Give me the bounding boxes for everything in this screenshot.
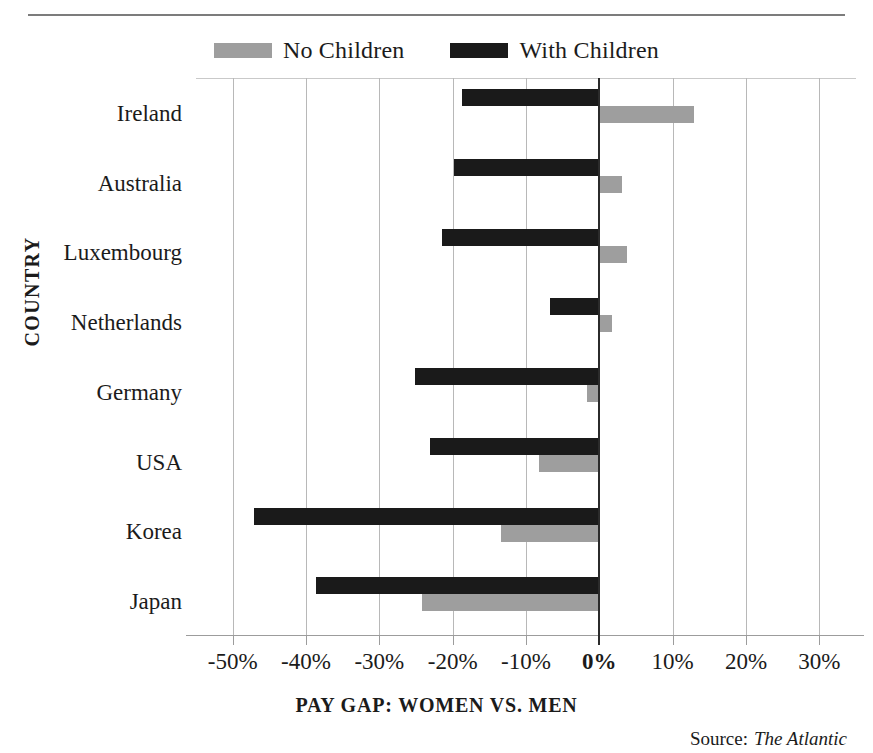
y-axis-label-japan: Japan <box>2 590 182 613</box>
legend-item-no-children: No Children <box>214 38 405 62</box>
bar-japan-no-children <box>422 594 599 611</box>
bar-row <box>196 427 856 497</box>
y-axis-category-labels: IrelandAustraliaLuxembourgNetherlandsGer… <box>0 78 182 636</box>
x-axis-line <box>186 635 864 636</box>
bar-row <box>196 287 856 357</box>
y-axis-label-netherlands: Netherlands <box>2 311 182 334</box>
bar-germany-with-children <box>415 368 600 385</box>
bar-row <box>196 148 856 218</box>
bar-netherlands-with-children <box>550 298 599 315</box>
plot-area <box>196 78 856 636</box>
header-divider <box>28 14 845 16</box>
x-axis-tickmark <box>306 636 307 645</box>
y-axis-label-korea: Korea <box>2 520 182 543</box>
bar-row <box>196 566 856 636</box>
bar-japan-with-children <box>316 577 599 594</box>
legend-swatch-with-children <box>450 43 508 58</box>
legend-swatch-no-children <box>214 43 272 58</box>
x-axis-tickmark <box>819 636 820 645</box>
bar-australia-with-children <box>454 159 599 176</box>
x-axis-tickmark <box>598 636 600 645</box>
bar-row <box>196 218 856 288</box>
bar-usa-no-children <box>539 455 599 472</box>
legend-label-no-children: No Children <box>283 38 405 62</box>
source-label: Source: <box>690 728 748 749</box>
bar-row <box>196 78 856 148</box>
bar-korea-no-children <box>501 525 599 542</box>
y-axis-label-germany: Germany <box>2 381 182 404</box>
bar-luxembourg-no-children <box>599 246 627 263</box>
bar-ireland-with-children <box>462 89 599 106</box>
x-axis-tickmark <box>746 636 747 645</box>
bar-netherlands-no-children <box>599 315 611 332</box>
legend-label-with-children: With Children <box>519 38 659 62</box>
y-axis-label-australia: Australia <box>2 172 182 195</box>
chart-legend: No Children With Children <box>0 36 873 64</box>
x-axis-tickmark <box>673 636 674 645</box>
x-axis-tickmark <box>233 636 234 645</box>
x-axis-tick-label: 30% <box>774 650 864 673</box>
bar-ireland-no-children <box>599 106 694 123</box>
source-name: The Atlantic <box>748 728 847 749</box>
zero-line <box>598 78 600 636</box>
x-axis-title: PAY GAP: WOMEN VS. MEN <box>0 694 873 717</box>
x-axis-tickmark <box>453 636 454 645</box>
y-axis-label-usa: USA <box>2 451 182 474</box>
y-axis-label-luxembourg: Luxembourg <box>2 241 182 264</box>
x-axis-tickmark <box>379 636 380 645</box>
bar-row <box>196 357 856 427</box>
bar-row <box>196 497 856 567</box>
bar-korea-with-children <box>254 508 599 525</box>
bar-luxembourg-with-children <box>442 229 600 246</box>
x-axis-tick-labels: -50%-40%-30%-20%-10%0%10%20%30% <box>196 650 856 680</box>
x-axis-tickmark <box>526 636 527 645</box>
bar-usa-with-children <box>430 438 599 455</box>
source-attribution: Source:The Atlantic <box>690 728 847 750</box>
y-axis-label-ireland: Ireland <box>2 102 182 125</box>
legend-item-with-children: With Children <box>450 38 659 62</box>
bar-australia-no-children <box>599 176 622 193</box>
